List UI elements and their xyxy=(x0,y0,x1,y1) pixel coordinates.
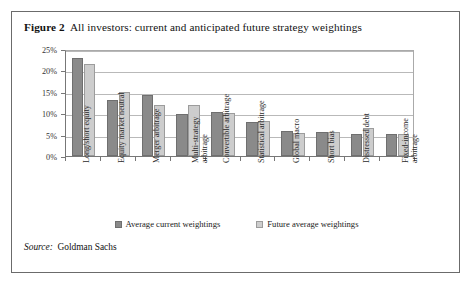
chart-plot-wrapper: 0%5%10%15%20%25% Long/short equityEquity… xyxy=(12,42,461,232)
gridline xyxy=(66,72,413,73)
y-axis-tick-label: 15% xyxy=(17,88,57,97)
category-label-line: Distressed debt xyxy=(362,113,371,163)
x-axis-tick-mark xyxy=(135,157,136,161)
category-label-line: Equity market neutral xyxy=(117,92,126,163)
category-label-line: arbitrage xyxy=(410,118,419,163)
figure-number: Figure 2 xyxy=(24,21,65,33)
chart-legend: Average current weightings Future averag… xyxy=(12,219,461,229)
y-axis-tick-label: 5% xyxy=(17,131,57,140)
x-axis-category-label: Equity market neutral xyxy=(117,92,126,163)
y-axis-tick-label: 0% xyxy=(17,153,57,162)
category-label-line: Convertible arbitrage xyxy=(222,94,231,163)
x-axis-category-label: Distressed debt xyxy=(362,113,371,163)
category-label-line: Short bias xyxy=(327,130,336,163)
x-axis-tick-mark xyxy=(100,157,101,161)
bar-current xyxy=(246,122,258,156)
source-value: Goldman Sachs xyxy=(58,242,117,252)
legend-label-current: Average current weightings xyxy=(126,219,221,229)
figure-title: Figure 2 All investors: current and anti… xyxy=(24,21,362,33)
bar-current xyxy=(281,131,293,156)
x-axis-category-label: Convertible arbitrage xyxy=(222,94,231,163)
category-label-line: Merger arbitrage xyxy=(152,109,161,163)
x-axis-tick-mark xyxy=(344,157,345,161)
y-axis-tick-label: 25% xyxy=(17,46,57,55)
bar-current xyxy=(176,114,188,156)
legend-item-future: Future average weightings xyxy=(256,219,358,229)
x-axis-category-label: Short bias xyxy=(327,130,336,163)
x-axis-tick-mark xyxy=(240,157,241,161)
source-note: Source: Goldman Sachs xyxy=(24,242,117,252)
x-axis-tick-mark xyxy=(65,157,66,161)
gridline xyxy=(66,51,413,52)
legend-swatch-current-icon xyxy=(115,221,122,228)
category-label-line: Statistical arbitrage xyxy=(257,100,266,163)
x-axis-category-label: Long/short equity xyxy=(82,105,91,163)
category-label-line: arbitrage xyxy=(200,117,209,163)
figure-caption: All investors: current and anticipated f… xyxy=(70,21,362,33)
category-label-line: Global macro xyxy=(292,119,301,163)
legend-swatch-future-icon xyxy=(256,221,263,228)
category-label-line: Long/short equity xyxy=(82,105,91,163)
y-axis-tick-label: 10% xyxy=(17,110,57,119)
source-label: Source: xyxy=(24,242,53,252)
bar-current xyxy=(316,132,328,156)
x-axis-tick-mark xyxy=(170,157,171,161)
figure-container: Figure 2 All investors: current and anti… xyxy=(11,11,460,273)
x-axis-category-label: Statistical arbitrage xyxy=(257,100,266,163)
category-label-line: Fixed-income xyxy=(401,118,410,163)
x-axis-category-label: Global macro xyxy=(292,119,301,163)
bar-current xyxy=(351,134,363,156)
bar-current xyxy=(386,134,398,156)
category-label-line: Multi-strategy xyxy=(191,117,200,163)
y-axis-tick-label: 20% xyxy=(17,67,57,76)
legend-item-current: Average current weightings xyxy=(115,219,221,229)
x-axis-tick-mark xyxy=(274,157,275,161)
x-axis-tick-mark xyxy=(309,157,310,161)
x-axis-tick-mark xyxy=(379,157,380,161)
x-axis-category-label: Merger arbitrage xyxy=(152,109,161,163)
x-axis-category-label: Fixed-incomearbitrage xyxy=(401,118,419,163)
legend-label-future: Future average weightings xyxy=(267,219,358,229)
x-axis-category-label: Multi-strategyarbitrage xyxy=(191,117,209,163)
